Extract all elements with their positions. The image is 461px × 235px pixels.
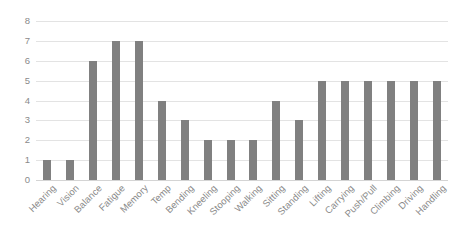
y-axis-tick-label: 0 (6, 175, 30, 185)
y-axis-tick-label: 5 (6, 76, 30, 86)
bar[interactable] (181, 120, 189, 180)
bar[interactable] (204, 140, 212, 180)
bar[interactable] (135, 41, 143, 180)
bar-chart: 876543210 HearingVisionBalanceFatigueMem… (0, 0, 461, 235)
bar[interactable] (112, 41, 120, 180)
bar[interactable] (433, 81, 441, 180)
y-axis-tick-label: 8 (6, 16, 30, 26)
y-axis-tick-label: 7 (6, 36, 30, 46)
y-axis-tick-label: 1 (6, 155, 30, 165)
x-axis-tick-label: Hearing (27, 183, 58, 214)
bar[interactable] (249, 140, 257, 180)
plot-area (36, 21, 448, 180)
y-axis-tick-label: 3 (6, 116, 30, 126)
y-axis-tick-label: 4 (6, 96, 30, 106)
y-axis-tick-label: 2 (6, 136, 30, 146)
bar[interactable] (295, 120, 303, 180)
bar[interactable] (318, 81, 326, 180)
y-axis-tick-label: 6 (6, 56, 30, 66)
bar[interactable] (66, 160, 74, 180)
bar[interactable] (89, 61, 97, 180)
bar[interactable] (341, 81, 349, 180)
bars-group (36, 21, 448, 180)
bar[interactable] (158, 101, 166, 181)
bar[interactable] (387, 81, 395, 180)
x-axis-tick-labels: HearingVisionBalanceFatigueMemoryTempBen… (36, 183, 448, 235)
bar[interactable] (43, 160, 51, 180)
bar[interactable] (227, 140, 235, 180)
gridline (36, 180, 448, 181)
bar[interactable] (410, 81, 418, 180)
bar[interactable] (272, 101, 280, 181)
bar[interactable] (364, 81, 372, 180)
